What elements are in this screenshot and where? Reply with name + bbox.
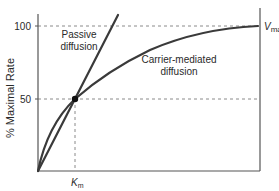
- passive-diffusion-label-line1: Passive: [61, 29, 96, 40]
- y-axis-label: % Maximal Rate: [4, 58, 16, 138]
- km-point-marker: [72, 96, 78, 102]
- y-tick-label-100: 100: [14, 21, 31, 32]
- carrier-mediated-label-line1: Carrier-mediated: [141, 54, 216, 65]
- carrier-mediated-label-line2: diffusion: [160, 66, 197, 77]
- chart-root: 100 50 % Maximal Rate Passive diffusion …: [0, 0, 279, 191]
- km-label: Km: [71, 177, 84, 189]
- y-tick-label-50: 50: [20, 94, 32, 105]
- passive-diffusion-label-line2: diffusion: [60, 41, 97, 52]
- vmax-label: Vmax: [264, 21, 279, 34]
